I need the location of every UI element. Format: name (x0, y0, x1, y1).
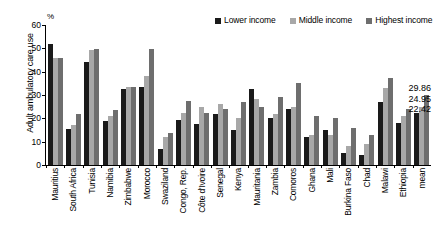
bar (278, 97, 283, 165)
x-axis-label-cell: Mauritania (248, 168, 266, 238)
bar (314, 116, 319, 165)
y-axis-tick-mark (42, 72, 45, 73)
bar-group (339, 25, 357, 165)
x-axis-label-cell: Ethiopia (394, 168, 412, 238)
x-axis-label: Namibia (105, 168, 115, 198)
x-axis-label: Kenya (233, 168, 243, 191)
x-axis-label-cell: Zambia (266, 168, 284, 238)
y-axis-tick-mark (42, 142, 45, 143)
y-axis-tick-mark (42, 118, 45, 119)
bar-group (376, 25, 394, 165)
bar (388, 78, 393, 165)
x-axis-label: Côte d'Ivoire (197, 168, 207, 213)
annotation-middle: 24.95 (408, 94, 431, 105)
legend-label-highest-income: Highest income (375, 16, 432, 25)
bar (149, 49, 154, 165)
x-axis-label: Ethiopia (398, 168, 408, 197)
y-axis-tick-mark (42, 165, 45, 166)
x-axis-label: South Africa (68, 168, 78, 211)
bar-chart: Lower income Middle income Highest incom… (0, 0, 436, 239)
bar (369, 135, 374, 165)
bar-group (101, 25, 119, 165)
legend-item-highest-income: Highest income (366, 16, 432, 25)
x-axis-label: Chad (362, 168, 372, 188)
bar-group (83, 25, 101, 165)
x-axis-line (45, 165, 431, 166)
legend-swatch-lower-income (215, 18, 221, 24)
y-axis-unit-label: % (47, 12, 54, 21)
bar-group (229, 25, 247, 165)
bar-group (193, 25, 211, 165)
bar (58, 58, 63, 165)
legend-item-middle-income: Middle income (290, 16, 353, 25)
bar (131, 87, 136, 165)
chart-legend: Lower income Middle income Highest incom… (215, 16, 432, 25)
bar-group (211, 25, 229, 165)
y-axis-tick-mark (42, 95, 45, 96)
bar-group (303, 25, 321, 165)
bar (296, 83, 301, 165)
y-axis-tick-label: 10 (32, 137, 41, 147)
x-axis-label: Mauritania (252, 168, 262, 206)
bar-group (358, 25, 376, 165)
plot-area: 0102030405060 (45, 25, 431, 165)
legend-item-lower-income: Lower income (215, 16, 276, 25)
x-axis-label-cell: Senegal (211, 168, 229, 238)
x-axis-label-cell: Mali (321, 168, 339, 238)
x-axis-label-cell: Congo, Rep. (174, 168, 192, 238)
x-axis-label-cell: Kenya (229, 168, 247, 238)
annotation-highest: 29.86 (408, 83, 431, 94)
x-axis-label-cell: Comoros (284, 168, 302, 238)
x-axis-label: Comoros (288, 168, 298, 201)
x-axis-label: Ghana (307, 168, 317, 193)
x-axis-label: mean (417, 168, 427, 188)
x-axis-label: Senegal (215, 168, 225, 198)
bar-group (156, 25, 174, 165)
x-axis-label-cell: Tunisia (83, 168, 101, 238)
x-axis-label: Mali (325, 168, 335, 183)
bar-group (119, 25, 137, 165)
bar (241, 102, 246, 165)
x-axis-label-cell: Morocco (138, 168, 156, 238)
x-axis-label-cell: Swaziland (156, 168, 174, 238)
bar-group (138, 25, 156, 165)
bar (204, 113, 209, 165)
bar-group (321, 25, 339, 165)
bar-group (64, 25, 82, 165)
bar (113, 110, 118, 165)
y-axis-tick-label: 40 (32, 67, 41, 77)
legend-swatch-highest-income (366, 18, 372, 24)
bar (186, 101, 191, 165)
x-axis-label-cell: Ghana (303, 168, 321, 238)
x-axis-label-cell: South Africa (64, 168, 82, 238)
bar-groups (46, 25, 431, 165)
mean-value-annotations: 29.86 24.95 22.42 (408, 83, 431, 115)
x-axis-label: Malawi (380, 168, 390, 193)
x-axis-label-cell: Côte d'Ivoire (193, 168, 211, 238)
x-axis-label: Tunisia (87, 168, 97, 194)
legend-swatch-middle-income (290, 18, 296, 24)
bar-group (248, 25, 266, 165)
x-axis-labels: MauritiusSouth AfricaTunisiaNamibiaZimba… (46, 168, 431, 238)
y-axis-tick-label: 30 (32, 90, 41, 100)
bar-group (266, 25, 284, 165)
y-axis-tick-label: 0 (36, 160, 41, 170)
x-axis-label: Zambia (270, 168, 280, 195)
bar (406, 109, 411, 165)
y-axis-tick-mark (42, 48, 45, 49)
y-axis-tick-mark (42, 25, 45, 26)
x-axis-label-cell: Malawi (376, 168, 394, 238)
legend-label-lower-income: Lower income (224, 16, 276, 25)
bar (76, 114, 81, 165)
x-axis-label-cell: Mauritius (46, 168, 64, 238)
bar (168, 133, 173, 165)
bar-group (46, 25, 64, 165)
x-axis-label: Congo, Rep. (178, 168, 188, 214)
bar-group (284, 25, 302, 165)
y-axis-title: Adult ambulatory care use (25, 8, 35, 158)
bar (94, 49, 99, 165)
x-axis-label: Morocco (142, 168, 152, 199)
x-axis-label: Swaziland (160, 168, 170, 205)
bar (333, 118, 338, 165)
x-axis-label: Zimbabwe (123, 168, 133, 206)
